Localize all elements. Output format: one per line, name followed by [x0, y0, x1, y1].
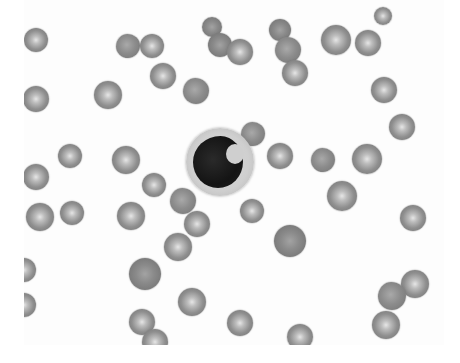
red-blood-cell: [311, 148, 335, 172]
red-blood-cell: [24, 28, 48, 52]
red-blood-cell: [140, 34, 164, 58]
red-blood-cell: [352, 144, 382, 174]
red-blood-cell: [116, 34, 140, 58]
red-blood-cell: [355, 30, 381, 56]
red-blood-cell: [24, 86, 49, 112]
red-blood-cell: [178, 288, 206, 316]
red-blood-cell: [227, 39, 253, 65]
red-blood-cell: [274, 225, 306, 257]
red-blood-cell: [24, 164, 49, 190]
red-blood-cell: [374, 7, 392, 25]
red-blood-cell: [321, 25, 351, 55]
micrograph: [0, 0, 460, 363]
red-blood-cell: [184, 211, 210, 237]
red-blood-cell: [227, 310, 253, 336]
red-blood-cell: [287, 324, 313, 345]
red-blood-cell: [94, 81, 122, 109]
red-blood-cell: [58, 144, 82, 168]
red-blood-cell: [371, 77, 397, 103]
monocyte: [186, 128, 254, 196]
nucleus-indentation: [226, 144, 244, 164]
red-blood-cell: [327, 181, 357, 211]
red-blood-cell: [400, 205, 426, 231]
red-blood-cell: [26, 203, 54, 231]
red-blood-cell: [129, 258, 161, 290]
red-blood-cell: [142, 329, 168, 345]
red-blood-cell: [267, 143, 293, 169]
red-blood-cell: [112, 146, 140, 174]
red-blood-cell: [183, 78, 209, 104]
red-blood-cell: [164, 233, 192, 261]
red-blood-cell: [60, 201, 84, 225]
red-blood-cell: [372, 311, 400, 339]
red-blood-cell: [275, 37, 301, 63]
red-blood-cell: [142, 173, 166, 197]
red-blood-cell: [117, 202, 145, 230]
red-blood-cell: [150, 63, 176, 89]
red-blood-cell: [24, 258, 36, 282]
red-blood-cell: [389, 114, 415, 140]
red-blood-cell: [378, 282, 406, 310]
red-blood-cell: [240, 199, 264, 223]
blood-smear-field: [24, 0, 444, 345]
red-blood-cell: [282, 60, 308, 86]
red-blood-cell: [24, 293, 36, 317]
red-blood-cell: [170, 188, 196, 214]
